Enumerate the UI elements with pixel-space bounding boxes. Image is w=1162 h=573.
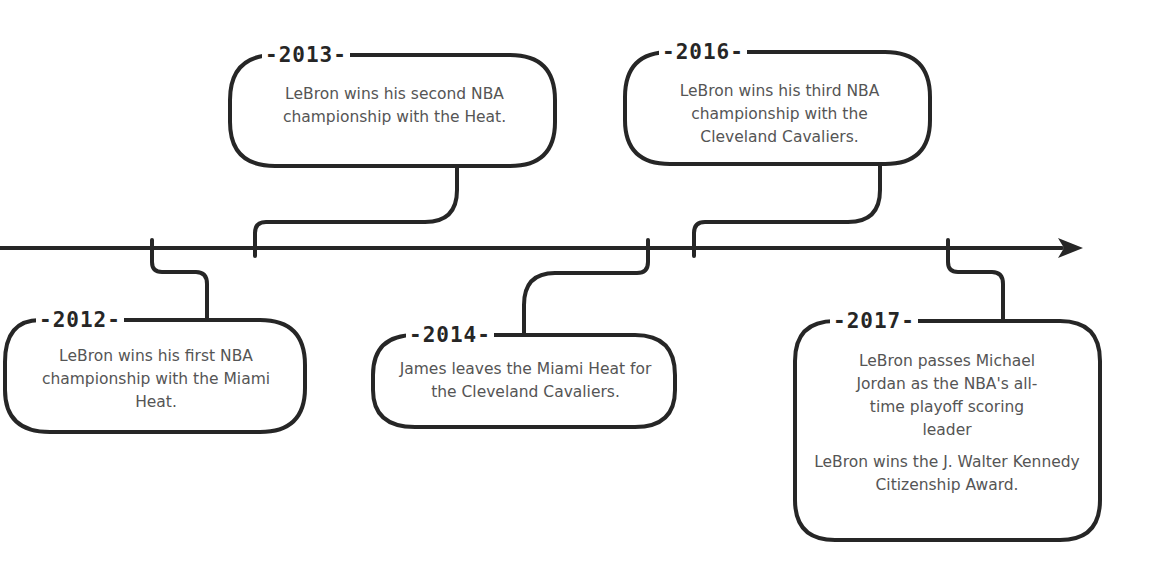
event-description-2012: LeBron wins his first NBA championship w… <box>25 345 287 414</box>
connector-2014 <box>524 240 648 335</box>
event-description-2016: LeBron wins his third NBA championship w… <box>652 80 907 149</box>
event-description-2017: LeBron passes Michael Jordan as the NBA'… <box>812 350 1082 497</box>
event-text-2017-citizenship-award: LeBron wins the J. Walter Kennedy Citize… <box>812 451 1082 497</box>
event-description-2013: LeBron wins his second NBA championship … <box>262 83 527 129</box>
connector-2016 <box>694 164 880 256</box>
connector-2013 <box>255 166 457 256</box>
year-label-2012: -2012- <box>36 309 124 331</box>
year-label-2014: -2014- <box>406 324 494 346</box>
year-label-2017: -2017- <box>830 310 918 332</box>
connector-2012 <box>152 240 207 320</box>
year-label-2016: -2016- <box>659 41 747 63</box>
connector-2017 <box>948 240 1003 321</box>
event-text-2016: LeBron wins his third NBA championship w… <box>652 80 907 149</box>
event-text-2012: LeBron wins his first NBA championship w… <box>25 345 287 414</box>
year-label-2013: -2013- <box>262 44 350 66</box>
event-text-2017-playoff-record: LeBron passes Michael Jordan as the NBA'… <box>812 350 1082 442</box>
event-text-2013: LeBron wins his second NBA championship … <box>262 83 527 129</box>
event-text-2014: James leaves the Miami Heat for the Clev… <box>388 358 663 404</box>
event-description-2014: James leaves the Miami Heat for the Clev… <box>388 358 663 404</box>
